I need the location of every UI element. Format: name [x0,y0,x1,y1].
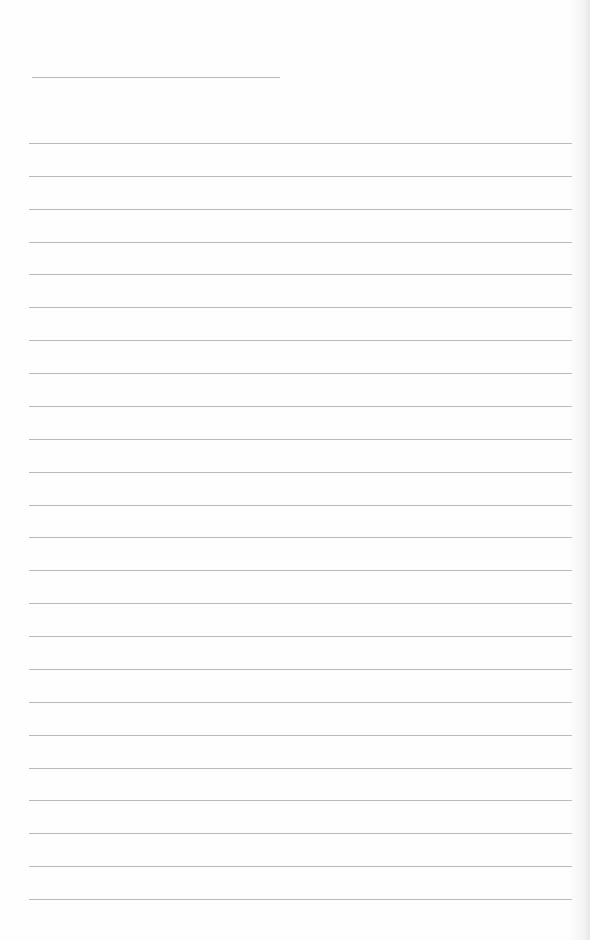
ruled-line [29,340,572,341]
ruled-line [29,176,572,177]
ruled-line [29,274,572,275]
ruled-line [29,406,572,407]
ruled-line [29,735,572,736]
ruled-line [29,669,572,670]
ruled-line [29,899,572,900]
ruled-line [29,373,572,374]
ruled-line [29,209,572,210]
notebook-page [0,0,590,940]
ruled-line [29,505,572,506]
ruled-line [29,603,572,604]
ruled-line [29,143,572,144]
ruled-line [29,866,572,867]
ruled-line [29,768,572,769]
ruled-line [29,702,572,703]
ruled-line [29,636,572,637]
ruled-line [29,833,572,834]
ruled-line [29,537,572,538]
ruled-line [29,472,572,473]
ruled-line [29,242,572,243]
ruled-line [29,307,572,308]
ruled-line [29,439,572,440]
ruled-line [29,570,572,571]
ruled-lines [0,0,590,940]
ruled-line [29,800,572,801]
